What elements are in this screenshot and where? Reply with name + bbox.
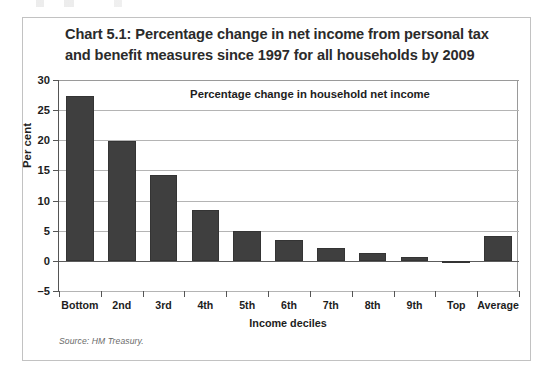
bars-layer xyxy=(59,80,519,291)
y-tick-label-25: 25 xyxy=(38,104,50,116)
plot-area: 302520151050–5 Percentage change in hous… xyxy=(58,80,518,291)
x-category-label-2nd: 2nd xyxy=(112,299,131,311)
y-tick-label-20: 20 xyxy=(38,134,50,146)
page-top-text-artifact xyxy=(30,0,330,7)
x-tick-4 xyxy=(226,291,227,297)
gridline--5 xyxy=(59,291,519,292)
bar-7th xyxy=(317,248,345,261)
y-tick-label-15: 15 xyxy=(38,164,50,176)
x-tick-2 xyxy=(143,291,144,297)
bar-9th xyxy=(401,257,429,261)
x-category-label-top: Top xyxy=(447,299,466,311)
y-tick-label--5: –5 xyxy=(38,285,50,297)
y-tick-label-30: 30 xyxy=(38,74,50,86)
bar-8th xyxy=(359,253,387,261)
x-category-label-6th: 6th xyxy=(281,299,297,311)
bar-6th xyxy=(275,240,303,261)
x-category-label-3rd: 3rd xyxy=(155,299,172,311)
x-tick-5 xyxy=(268,291,269,297)
x-tick-6 xyxy=(310,291,311,297)
y-tick-label-0: 0 xyxy=(44,255,50,267)
x-tick-end xyxy=(519,291,520,297)
x-tick-3 xyxy=(184,291,185,297)
x-category-label-4th: 4th xyxy=(197,299,213,311)
x-tick-7 xyxy=(352,291,353,297)
x-tick-8 xyxy=(394,291,395,297)
source-note: Source: HM Treasury. xyxy=(59,336,144,346)
x-tick-0 xyxy=(59,291,60,297)
y-tick-label-10: 10 xyxy=(38,195,50,207)
x-category-label-5th: 5th xyxy=(239,299,255,311)
bar-4th xyxy=(192,210,220,261)
x-category-label-8th: 8th xyxy=(365,299,381,311)
chart-figure-frame: Chart 5.1: Percentage change in net inco… xyxy=(22,17,531,361)
x-axis-title: Income deciles xyxy=(58,317,518,329)
x-tick-1 xyxy=(101,291,102,297)
bar-bottom xyxy=(66,96,94,261)
x-category-label-7th: 7th xyxy=(323,299,339,311)
bar-top xyxy=(442,261,470,263)
x-category-label-average: Average xyxy=(477,299,518,311)
bar-3rd xyxy=(150,175,178,261)
x-tick-9 xyxy=(435,291,436,297)
x-category-label-bottom: Bottom xyxy=(61,299,98,311)
bar-2nd xyxy=(108,141,136,260)
y-axis-title: Per cent xyxy=(21,123,33,168)
x-tick-10 xyxy=(477,291,478,297)
bar-average xyxy=(484,236,512,261)
plot-wrapper: Per cent 302520151050–5 Percentage chang… xyxy=(23,18,532,362)
y-tick-label-5: 5 xyxy=(44,225,50,237)
bar-5th xyxy=(233,231,261,261)
x-category-label-9th: 9th xyxy=(407,299,423,311)
